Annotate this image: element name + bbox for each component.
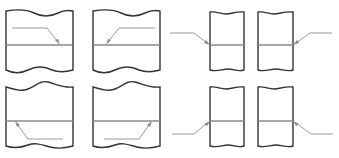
leader-line: [296, 33, 332, 43]
arrow-icon: [106, 39, 111, 45]
leader-line: [17, 124, 63, 139]
panel-top-left-wide: [6, 10, 73, 73]
part-outline: [6, 10, 73, 73]
part-outline: [258, 87, 293, 147]
leader-line: [104, 124, 150, 139]
part-outline: [210, 87, 244, 147]
panel-bottom-fourth-narrow: [258, 87, 333, 147]
part-outline: [93, 82, 160, 148]
part-outline: [210, 12, 244, 71]
joint-diagram: [0, 0, 339, 158]
part-outline: [258, 12, 293, 71]
part-outline: [6, 82, 73, 148]
arrow-icon: [147, 121, 152, 127]
arrow-icon: [15, 121, 20, 127]
part-outline: [93, 10, 160, 73]
panel-top-fourth-narrow: [258, 12, 332, 71]
leader-line: [170, 33, 207, 43]
panel-top-third-narrow: [170, 12, 244, 71]
panel-bottom-left-wide: [6, 82, 73, 148]
panel-bottom-third-narrow: [172, 87, 244, 147]
arrow-icon: [293, 40, 299, 45]
panel-bottom-second-wide: [93, 82, 160, 148]
leader-line: [108, 28, 155, 42]
leader-line: [12, 28, 58, 42]
leader-line: [296, 123, 333, 134]
arrow-icon: [55, 39, 60, 45]
panel-top-second-wide: [93, 10, 160, 73]
arrow-icon: [293, 121, 299, 126]
arrow-icon: [204, 40, 210, 45]
leader-line: [172, 123, 207, 134]
